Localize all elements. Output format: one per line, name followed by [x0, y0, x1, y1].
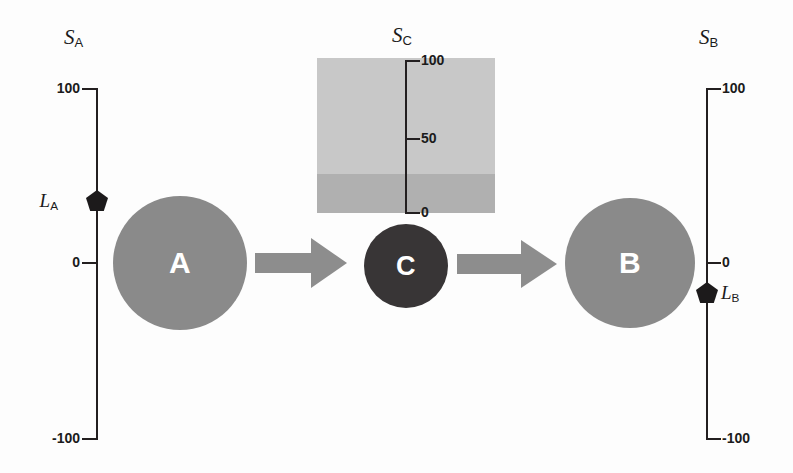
level-marker-la-label: LA [40, 191, 58, 212]
level-marker-lb[interactable] [696, 282, 718, 303]
axis-line-sa [96, 88, 98, 440]
flow-arrow-c-to-b [457, 240, 559, 288]
marker-la-letter: L [40, 190, 51, 211]
axis-line-sb [706, 88, 708, 440]
arrow-shaft [457, 254, 523, 274]
axis-sc-ticklabel-100: 100 [421, 53, 444, 67]
axis-sc-tick-0 [405, 212, 420, 214]
arrow-head [521, 240, 557, 288]
axis-sb-tick-100 [706, 88, 721, 90]
axis-title-sa: SA [64, 27, 83, 49]
node-c-label: C [396, 251, 416, 282]
axis-title-sb-letter: S [699, 25, 710, 49]
axis-sa-ticklabel-100: 100 [34, 81, 80, 95]
node-c[interactable]: C [364, 224, 448, 308]
arrow-head [311, 238, 347, 288]
axis-sb-tick-0 [706, 262, 721, 264]
axis-title-sb-sub: B [710, 35, 719, 50]
arrow-shaft [255, 253, 313, 273]
axis-sa-tick-100 [82, 88, 97, 90]
axis-title-sc: SC [392, 25, 412, 47]
axis-title-sa-letter: S [64, 25, 75, 49]
axis-sa-tick-neg100 [82, 438, 97, 440]
node-b[interactable]: B [565, 198, 695, 328]
axis-sc-tick-50 [405, 138, 420, 140]
flow-arrow-a-to-c [255, 238, 347, 288]
axis-sa-ticklabel-neg100: -100 [24, 431, 80, 445]
axis-sa-ticklabel-0: 0 [34, 255, 80, 269]
axis-sc-ticklabel-50: 50 [421, 131, 437, 145]
axis-title-sc-sub: C [403, 33, 413, 48]
axis-sc-tick-100 [405, 60, 420, 62]
level-marker-la[interactable] [86, 190, 108, 211]
marker-la-sub: A [50, 199, 58, 212]
axis-sa-tick-0 [82, 262, 97, 264]
axis-sb-tick-neg100 [706, 438, 721, 440]
diagram-canvas: A C B SA 100 0 -100 LA SC 100 50 0 SB 10… [0, 0, 793, 473]
axis-sb-ticklabel-0: 0 [722, 255, 730, 269]
axis-title-sb: SB [699, 27, 718, 49]
axis-title-sa-sub: A [75, 35, 84, 50]
marker-lb-sub: B [732, 291, 740, 304]
axis-sb-ticklabel-neg100: -100 [722, 431, 750, 445]
level-marker-lb-label: LB [721, 283, 739, 304]
axis-line-sc [405, 60, 407, 213]
axis-sc-ticklabel-0: 0 [421, 205, 429, 219]
node-a-label: A [169, 246, 191, 280]
marker-lb-letter: L [721, 282, 732, 303]
axis-sb-ticklabel-100: 100 [722, 81, 745, 95]
node-a[interactable]: A [113, 196, 247, 330]
node-b-label: B [619, 246, 641, 280]
axis-title-sc-letter: S [392, 23, 403, 47]
